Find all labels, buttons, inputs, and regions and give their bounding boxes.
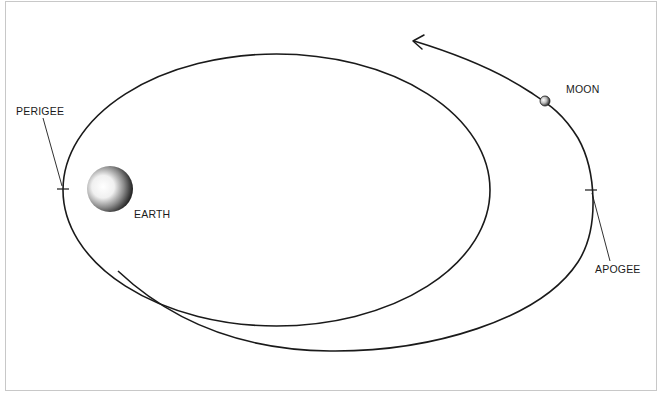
earth-label: EARTH xyxy=(134,209,170,220)
outer-orbit-path xyxy=(118,41,593,351)
perigee-label: PERIGEE xyxy=(16,106,64,117)
orbit-diagram xyxy=(0,0,664,399)
apogee-leader xyxy=(592,193,610,261)
perigee-leader xyxy=(43,118,62,186)
apogee-label: APOGEE xyxy=(595,264,641,275)
earth-icon xyxy=(87,166,133,212)
moon-label: MOON xyxy=(566,84,599,95)
moon-icon xyxy=(540,96,550,106)
